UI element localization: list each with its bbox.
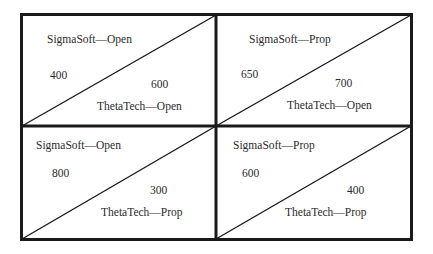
bottom-value: 300 (150, 184, 167, 196)
top-value: 800 (52, 167, 69, 179)
cell-prop-prop: SigmaSoft—Prop 600 400 ThetaTech—Prop (216, 126, 412, 239)
top-label: SigmaSoft—Open (36, 139, 121, 151)
top-label: SigmaSoft—Prop (249, 33, 331, 45)
bottom-label: ThetaTech—Open (287, 99, 372, 111)
bottom-value: 400 (347, 184, 364, 196)
bottom-label: ThetaTech—Prop (101, 206, 183, 218)
cell-open-open: SigmaSoft—Open 400 600 ThetaTech—Open (20, 13, 216, 126)
top-label: SigmaSoft—Open (47, 33, 132, 45)
payoff-matrix: SigmaSoft—Open 400 600 ThetaTech—Open Si… (20, 13, 413, 241)
top-value: 650 (241, 68, 258, 80)
cell-open-prop: SigmaSoft—Open 800 300 ThetaTech—Prop (20, 126, 216, 239)
cell-prop-open: SigmaSoft—Prop 650 700 ThetaTech—Open (216, 13, 412, 126)
bottom-label: ThetaTech—Open (97, 100, 182, 112)
bottom-label: ThetaTech—Prop (285, 206, 367, 218)
top-value: 400 (50, 69, 67, 81)
bottom-value: 700 (335, 77, 352, 89)
bottom-value: 600 (151, 78, 168, 90)
top-value: 600 (242, 167, 259, 179)
top-label: SigmaSoft—Prop (233, 139, 315, 151)
